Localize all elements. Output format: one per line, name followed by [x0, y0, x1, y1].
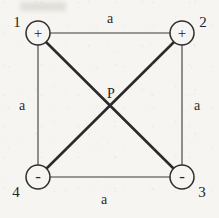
node-2-corner-label: 2: [199, 14, 207, 30]
edge-right-label: a: [194, 98, 201, 113]
node-1-sign: +: [34, 25, 42, 41]
node-3: - 3: [170, 165, 206, 200]
center-point-label: P: [107, 86, 115, 101]
charge-square-diagram: + 1 + 2 - 3 - 4 a a a a P: [0, 0, 219, 218]
node-4-sign: -: [35, 167, 41, 186]
edge-bottom-label: a: [101, 192, 108, 207]
node-2: + 2: [170, 14, 207, 45]
edge-top-label: a: [107, 11, 114, 26]
node-4-corner-label: 4: [12, 184, 20, 200]
node-3-sign: -: [179, 167, 185, 186]
node-1-corner-label: 1: [13, 14, 21, 30]
edge-left-label: a: [19, 98, 26, 113]
figure-container: + 1 + 2 - 3 - 4 a a a a P: [0, 0, 219, 218]
node-2-sign: +: [178, 25, 186, 41]
node-3-corner-label: 3: [198, 184, 206, 200]
node-4: - 4: [12, 165, 50, 200]
node-1: + 1: [13, 14, 50, 45]
